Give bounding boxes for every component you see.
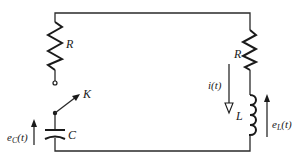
left-resistor: R (48, 22, 74, 70)
capacitor-voltage-label: eC(t) (7, 131, 28, 145)
up-arrow-icon (31, 119, 37, 127)
inductor-coil-icon (250, 95, 256, 136)
switch-arm (55, 97, 76, 113)
switch-label: K (82, 87, 92, 101)
capacitor: C (45, 128, 77, 142)
inductor-label: L (235, 109, 243, 123)
up-arrow-icon (264, 94, 270, 102)
left-resistor-label: R (65, 37, 74, 51)
inductor: L (235, 95, 256, 136)
resistor-zigzag-icon (243, 30, 256, 70)
capacitor-voltage-indicator: eC(t) (7, 119, 37, 145)
down-hollow-arrow-icon (225, 103, 233, 113)
right-resistor-label: R (233, 47, 242, 61)
right-resistor: R (233, 30, 256, 70)
capacitor-label: C (68, 128, 77, 142)
inductor-voltage-indicator: eL(t) (264, 94, 292, 137)
circuit-diagram: R K C eC(t) R L i(t) eL(t) (0, 0, 301, 162)
switch: K (53, 87, 92, 115)
inductor-voltage-label: eL(t) (272, 118, 292, 132)
current-label: i(t) (208, 79, 222, 92)
open-terminal-icon (53, 81, 57, 85)
top-wire (55, 13, 250, 30)
resistor-zigzag-icon (48, 22, 62, 70)
current-indicator: i(t) (208, 64, 233, 113)
bottom-wire (55, 136, 250, 151)
